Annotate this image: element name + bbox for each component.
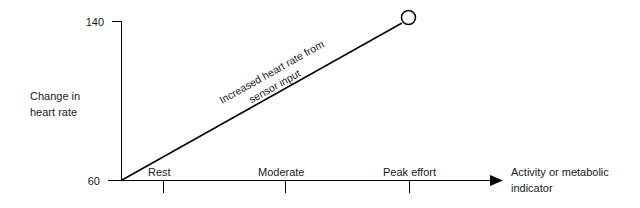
chart-canvas: 140 60 Change in heart rate Rest Moderat… bbox=[0, 0, 640, 208]
y-tick-label-140: 140 bbox=[86, 16, 104, 28]
x-axis-title-line-1: Activity or metabolic bbox=[511, 166, 609, 178]
x-axis-title-line-2: indicator bbox=[511, 182, 553, 194]
x-category-label-rest: Rest bbox=[148, 166, 171, 178]
y-axis-title-line-1: Change in bbox=[30, 90, 80, 102]
chart-figure: 140 60 Change in heart rate Rest Moderat… bbox=[0, 0, 640, 208]
trend-line-heart-rate bbox=[122, 23, 402, 180]
data-endpoint-circle bbox=[402, 11, 416, 25]
series-annotation-group: Increased heart rate from sensor input bbox=[217, 37, 333, 117]
x-category-label-moderate: Moderate bbox=[258, 166, 304, 178]
y-tick-label-60: 60 bbox=[88, 175, 100, 187]
x-category-label-peak-effort: Peak effort bbox=[383, 166, 436, 178]
y-axis-title-line-2: heart rate bbox=[30, 106, 77, 118]
right-arrow-icon bbox=[490, 175, 503, 186]
